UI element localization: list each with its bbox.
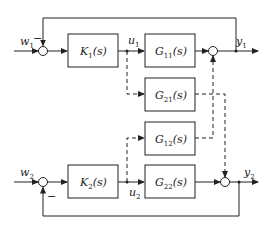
u1-to-g21-dashed [127, 51, 144, 94]
k1-block-label: K1(s) [79, 45, 107, 60]
output-sum-junction-1 [209, 47, 218, 56]
u1-label: u1 [128, 34, 140, 49]
minus-sign-1: − [33, 32, 42, 45]
summing-junction-1 [39, 47, 48, 56]
y1-label: y1 [235, 35, 247, 50]
output-sum-junction-2 [221, 178, 230, 187]
summing-junction-2 [39, 178, 48, 187]
block-diagram: w1 − u1 y1 w2 − u2 y2 K1(s) K2(s) G11(s)… [0, 0, 273, 228]
y2-branch-dot [238, 181, 241, 184]
u2-label: u2 [129, 186, 141, 201]
g21-to-sum2-dashed [195, 94, 225, 177]
y2-label: y2 [243, 166, 255, 181]
w1-label: w1 [20, 35, 34, 50]
u1-branch-dot [126, 50, 129, 53]
g12-block [145, 122, 195, 155]
u2-branch-dot [126, 181, 129, 184]
w2-label: w2 [20, 166, 34, 181]
g21-block [145, 78, 195, 111]
y1-branch-dot [235, 50, 238, 53]
k2-block-label: K2(s) [79, 176, 107, 191]
g11-block [145, 34, 195, 67]
minus-sign-2: − [47, 190, 56, 203]
g12-to-sum1-dashed [195, 56, 213, 138]
g22-block [145, 165, 195, 198]
u2-to-g12-dashed [127, 138, 144, 182]
